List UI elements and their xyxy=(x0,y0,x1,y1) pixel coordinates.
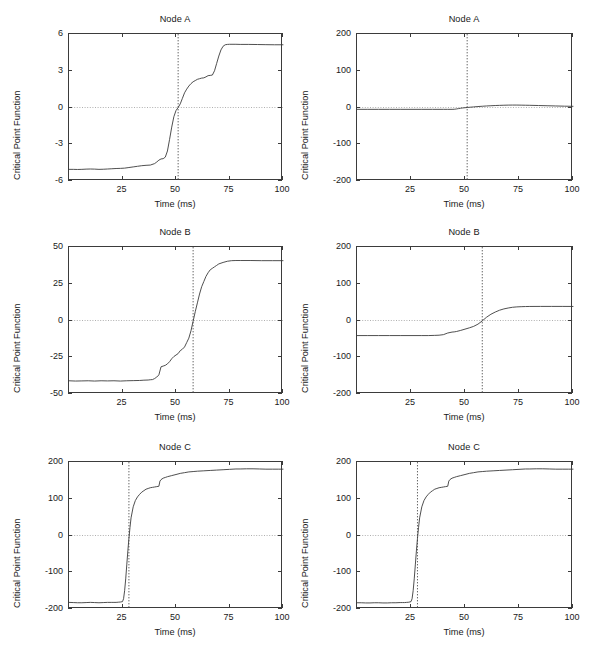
plot-title: Node C xyxy=(356,442,572,452)
x-tickmark xyxy=(410,461,411,465)
x-tickmark xyxy=(572,461,573,465)
x-tickmark xyxy=(464,461,465,465)
x-tickmark xyxy=(410,604,411,608)
x-tickmark xyxy=(572,604,573,608)
x-tickmark xyxy=(518,604,519,608)
y-tickmark xyxy=(356,498,360,499)
y-tick-label: 100 xyxy=(312,493,351,503)
x-tick-label: 50 xyxy=(459,612,469,622)
x-tickmark xyxy=(518,461,519,465)
y-tickmark xyxy=(568,608,572,609)
y-tickmark xyxy=(568,461,572,462)
y-tickmark xyxy=(568,571,572,572)
figure-canvas: Node A255075100-6-3036Time (ms)Critical … xyxy=(0,0,600,653)
y-tickmark xyxy=(356,461,360,462)
y-tick-label: -200 xyxy=(312,603,351,613)
y-axis-label: Critical Point Function xyxy=(300,519,310,608)
data-series-line xyxy=(357,469,573,603)
y-tickmark xyxy=(568,498,572,499)
plot-axes xyxy=(356,461,572,608)
x-axis-label: Time (ms) xyxy=(356,627,572,637)
y-tickmark xyxy=(356,608,360,609)
y-tickmark xyxy=(356,571,360,572)
x-tick-label: 25 xyxy=(405,612,415,622)
x-tickmark xyxy=(464,604,465,608)
y-tick-label: 0 xyxy=(312,530,351,540)
y-tick-label: 200 xyxy=(312,456,351,466)
y-tickmark xyxy=(568,535,572,536)
y-tickmark xyxy=(356,535,360,536)
x-tick-label: 100 xyxy=(564,612,579,622)
x-tick-label: 75 xyxy=(513,612,523,622)
y-tick-label: -100 xyxy=(312,566,351,576)
plot-panel-node-c-right: Node C255075100-200-1000100200Time (ms)C… xyxy=(0,0,600,653)
